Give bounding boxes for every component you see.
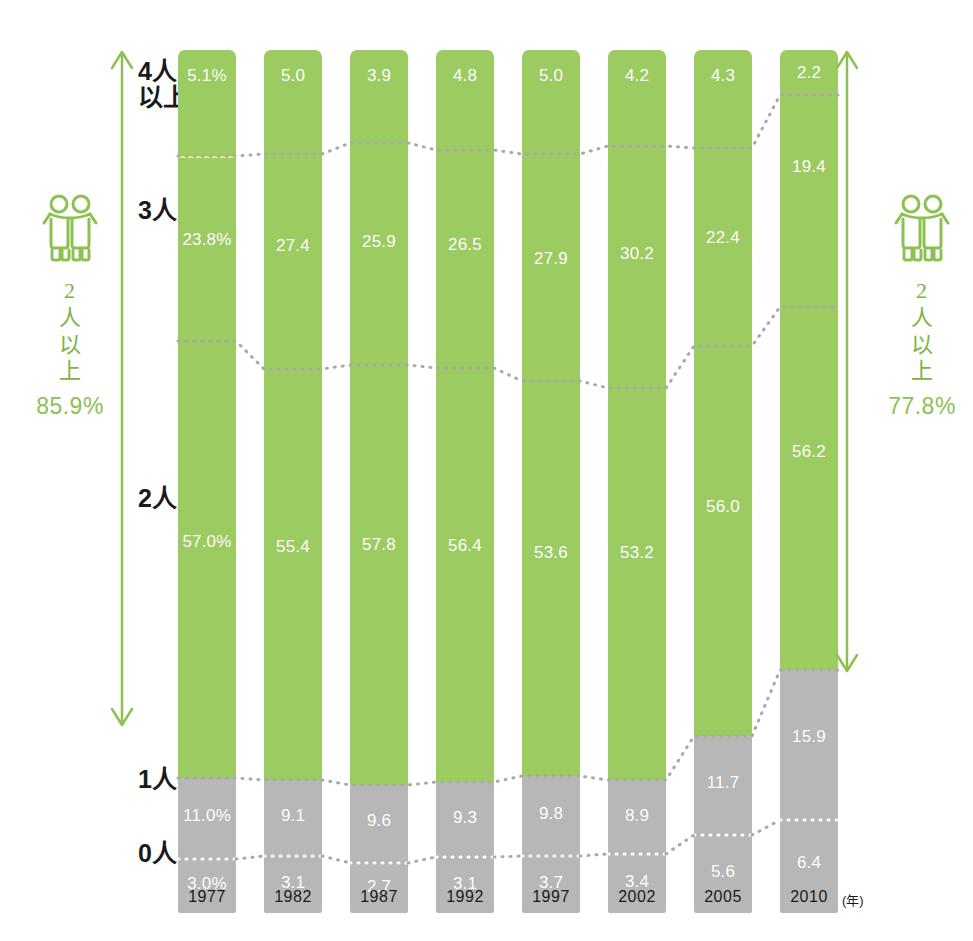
segment-3: 26.5 (436, 150, 494, 368)
year-label-1977: 1977 (178, 888, 236, 906)
segment-4plus: 4.3 (694, 50, 752, 148)
segment-3: 19.4 (780, 95, 838, 307)
bar-column-1987: 3.9 25.9 57.8 9.6 2.7 (350, 50, 408, 880)
segment-value: 9.6 (350, 811, 408, 831)
year-label-2010: 2010 (780, 888, 838, 906)
bar-column-1982: 5.0 27.4 55.4 9.1 3.1 (264, 50, 322, 880)
segment-2: 55.4 (264, 369, 322, 780)
segment-4plus: 5.0 (522, 50, 580, 154)
left-char-2: 以 (10, 332, 130, 359)
row-label-1: 1人 (138, 766, 177, 792)
right-char-0: 2 (862, 278, 973, 305)
segment-value: 5.0 (264, 66, 322, 86)
year-label-1992: 1992 (436, 888, 494, 906)
row-label-2: 2人 (138, 485, 177, 511)
segment-value: 5.6 (694, 862, 752, 882)
left-annotation-percent: 85.9% (10, 393, 130, 420)
segment-value: 2.2 (780, 63, 838, 83)
bar-column-1977: 5.1% 23.8% 57.0% 11.0% 3.0% (178, 50, 236, 880)
row-label-1-text: 1人 (138, 765, 177, 793)
segment-value: 3.9 (350, 66, 408, 86)
row-label-0: 0人 (138, 840, 177, 866)
segment-value: 23.8% (178, 230, 236, 250)
segment-value: 4.8 (436, 66, 494, 86)
segment-value: 25.9 (350, 232, 408, 252)
segment-3: 25.9 (350, 143, 408, 365)
row-label-4plus-line1: 4人 (138, 57, 177, 85)
segment-1: 11.7 (694, 736, 752, 835)
left-char-1: 人 (10, 305, 130, 332)
segment-value: 27.9 (522, 249, 580, 269)
segment-1: 11.0% (178, 778, 236, 859)
right-char-3: 上 (862, 358, 973, 385)
segment-value: 11.0% (178, 806, 236, 826)
segment-value: 55.4 (264, 537, 322, 557)
row-label-0-text: 0人 (138, 839, 177, 867)
segment-3: 30.2 (608, 146, 666, 388)
segment-2: 53.2 (608, 388, 666, 780)
segment-4plus: 3.9 (350, 50, 408, 143)
segment-2: 57.8 (350, 365, 408, 785)
segment-2: 57.0% (178, 341, 236, 778)
year-label-2005: 2005 (694, 888, 752, 906)
segment-4plus: 4.8 (436, 50, 494, 150)
segment-value: 53.2 (608, 543, 666, 563)
segment-1: 9.8 (522, 776, 580, 856)
segment-value: 56.0 (694, 497, 752, 517)
segment-value: 56.2 (780, 442, 838, 462)
right-annotation-percent: 77.8% (862, 393, 973, 420)
segment-1: 9.1 (264, 780, 322, 856)
bar-column-1997: 5.0 27.9 53.6 9.8 3.7 (522, 50, 580, 880)
segment-value: 8.9 (608, 806, 666, 826)
bar-column-2005: 4.3 22.4 56.0 11.7 5.6 (694, 50, 752, 880)
segment-3: 23.8% (178, 158, 236, 341)
segment-1: 9.3 (436, 782, 494, 857)
segment-2: 56.4 (436, 368, 494, 782)
segment-value: 56.4 (436, 536, 494, 556)
row-label-3-text: 3人 (138, 196, 177, 224)
bar-column-1992: 4.8 26.5 56.4 9.3 3.1 (436, 50, 494, 880)
segment-value: 57.0% (178, 532, 236, 552)
segment-1: 15.9 (780, 670, 838, 820)
year-axis-unit: (年) (842, 890, 864, 909)
year-label-1997: 1997 (522, 888, 580, 906)
segment-value: 57.8 (350, 535, 408, 555)
segment-2: 53.6 (522, 381, 580, 776)
right-char-2: 以 (862, 332, 973, 359)
segment-value: 19.4 (780, 157, 838, 177)
segment-3: 27.9 (522, 154, 580, 381)
segment-value: 53.6 (522, 543, 580, 563)
bar-column-2010: 2.2 19.4 56.2 15.9 6.4 (780, 50, 838, 880)
segment-3: 27.4 (264, 154, 322, 369)
segment-value: 6.4 (780, 853, 838, 873)
segment-value: 9.3 (436, 808, 494, 828)
segment-value: 5.1% (178, 66, 236, 86)
right-range-arrow (837, 52, 857, 671)
right-annotation-text: 2 人 以 上 (862, 278, 973, 385)
segment-4plus: 5.0 (264, 50, 322, 154)
segment-2: 56.2 (780, 307, 838, 670)
segment-value: 4.3 (694, 66, 752, 86)
segment-4plus: 2.2 (780, 50, 838, 95)
segment-value: 5.0 (522, 66, 580, 86)
segment-value: 15.9 (780, 727, 838, 747)
right-annotation: 2 人 以 上 77.8% (862, 192, 973, 420)
two-people-icon (32, 192, 108, 268)
two-people-icon (884, 192, 960, 268)
segment-3: 22.4 (694, 148, 752, 346)
segment-value: 9.8 (522, 804, 580, 824)
segment-1: 8.9 (608, 780, 666, 854)
segment-value: 11.7 (694, 773, 752, 793)
segment-2: 56.0 (694, 346, 752, 736)
year-label-1982: 1982 (264, 888, 322, 906)
left-annotation: 2 人 以 上 85.9% (10, 192, 130, 420)
left-char-3: 上 (10, 358, 130, 385)
right-char-1: 人 (862, 305, 973, 332)
row-label-2-text: 2人 (138, 484, 177, 512)
row-label-3: 3人 (138, 197, 177, 223)
segment-value: 9.1 (264, 806, 322, 826)
segment-value: 22.4 (694, 228, 752, 248)
segment-4plus: 4.2 (608, 50, 666, 146)
segment-1: 9.6 (350, 785, 408, 863)
chart-canvas: 4人 以上 3人 2人 1人 0人 5.1% 23.8% 57.0% 11.0%… (0, 0, 973, 941)
